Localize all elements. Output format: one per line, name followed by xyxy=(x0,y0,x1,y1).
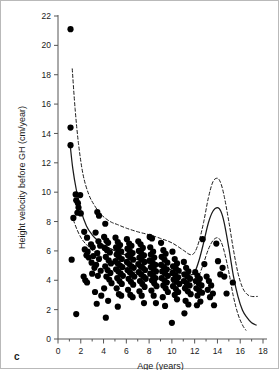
y-axis-title: Height velocity before GH (cm/year) xyxy=(17,106,27,249)
data-point xyxy=(105,298,111,304)
data-point xyxy=(169,249,175,255)
data-point xyxy=(84,279,90,285)
data-point xyxy=(230,279,236,285)
data-point xyxy=(143,276,149,282)
data-point xyxy=(75,205,81,211)
axis-labels-layer: 0246810121416182022024681012141618Age (y… xyxy=(17,11,268,370)
data-point xyxy=(108,280,114,286)
data-point xyxy=(95,273,101,279)
data-point xyxy=(158,240,164,246)
data-point xyxy=(181,310,187,316)
data-point xyxy=(153,283,159,289)
data-point xyxy=(105,240,111,246)
data-point xyxy=(194,293,200,299)
data-point xyxy=(67,124,73,130)
x-tick-label: 6 xyxy=(124,346,129,356)
x-tick-label: 18 xyxy=(258,346,268,356)
y-tick-label: 0 xyxy=(46,334,51,344)
data-point xyxy=(67,26,73,32)
data-point xyxy=(90,244,96,250)
data-point xyxy=(119,281,125,287)
data-points-layer xyxy=(67,26,235,326)
data-point xyxy=(165,289,171,295)
data-point xyxy=(200,236,206,242)
y-tick-label: 14 xyxy=(42,129,52,139)
data-point xyxy=(115,304,121,310)
x-tick-label: 12 xyxy=(190,346,200,356)
x-tick-label: 16 xyxy=(235,346,245,356)
data-point xyxy=(102,221,108,227)
x-tick-label: 2 xyxy=(78,346,83,356)
y-tick-label: 10 xyxy=(42,187,52,197)
data-point xyxy=(94,250,100,256)
data-point xyxy=(118,293,124,299)
y-tick-label: 22 xyxy=(42,11,52,21)
data-point xyxy=(169,320,175,326)
data-point xyxy=(67,142,73,148)
data-point xyxy=(139,293,145,299)
data-point xyxy=(94,301,100,307)
data-point xyxy=(96,213,102,219)
x-tick-label: 4 xyxy=(101,346,106,356)
data-point xyxy=(221,274,227,280)
data-point xyxy=(219,265,225,271)
data-point xyxy=(185,301,191,307)
data-point xyxy=(205,287,211,293)
data-point xyxy=(81,274,87,280)
data-point xyxy=(160,294,166,300)
x-axis-title: Age (years) xyxy=(137,361,184,370)
data-point xyxy=(89,271,95,277)
axes-layer xyxy=(54,15,267,344)
data-point xyxy=(130,282,136,288)
data-point xyxy=(213,240,219,246)
data-point xyxy=(181,259,187,265)
panel-letter: c xyxy=(14,351,20,362)
data-point xyxy=(84,235,90,241)
data-point xyxy=(153,300,159,306)
data-point xyxy=(149,235,155,241)
x-tick-label: 8 xyxy=(147,346,152,356)
data-point xyxy=(162,303,168,309)
data-point xyxy=(223,290,229,296)
data-point xyxy=(211,302,217,308)
data-point xyxy=(103,315,109,321)
data-point xyxy=(92,229,98,235)
data-point xyxy=(114,285,120,291)
data-point xyxy=(120,273,126,279)
x-tick-label: 14 xyxy=(213,346,223,356)
y-tick-label: 6 xyxy=(46,246,51,256)
data-point xyxy=(151,293,157,299)
y-tick-label: 12 xyxy=(42,158,52,168)
reference-curves-layer xyxy=(70,69,257,330)
y-tick-label: 2 xyxy=(46,305,51,315)
data-point xyxy=(194,302,200,308)
x-tick-label: 0 xyxy=(56,346,61,356)
data-point xyxy=(78,210,84,216)
data-point xyxy=(77,192,83,198)
data-point xyxy=(215,258,221,264)
data-point xyxy=(73,311,79,317)
data-point xyxy=(98,293,104,299)
data-point xyxy=(131,274,137,280)
data-point xyxy=(81,229,87,235)
y-tick-label: 16 xyxy=(42,99,52,109)
data-point xyxy=(141,284,147,290)
y-tick-label: 4 xyxy=(46,275,51,285)
y-tick-label: 20 xyxy=(42,40,52,50)
data-point xyxy=(101,285,107,291)
data-point xyxy=(188,291,194,297)
data-point xyxy=(93,262,99,268)
data-point xyxy=(174,296,180,302)
data-point xyxy=(130,294,136,300)
scatter-plot: 0246810121416182022024681012141618Age (y… xyxy=(1,1,280,370)
data-point xyxy=(69,257,75,263)
x-tick-label: 10 xyxy=(167,346,177,356)
y-tick-label: 18 xyxy=(42,70,52,80)
data-point xyxy=(96,256,102,262)
data-point xyxy=(141,300,147,306)
y-tick-label: 8 xyxy=(46,217,51,227)
data-point xyxy=(201,261,207,267)
data-point xyxy=(70,215,76,221)
data-point xyxy=(207,294,213,300)
